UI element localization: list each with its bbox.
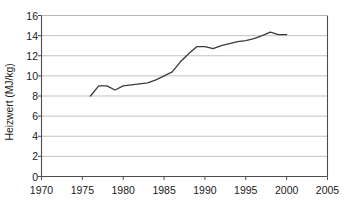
data-series-line — [91, 32, 287, 96]
chart-container: Heizwert (MJ/kg) 0246810121416 197019751… — [0, 0, 345, 204]
plot-area — [0, 0, 345, 204]
gridlines — [42, 16, 328, 157]
